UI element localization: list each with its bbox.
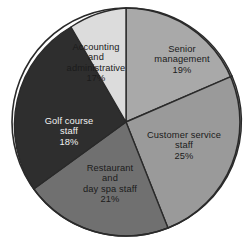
pie-chart-svg — [0, 0, 249, 244]
pie-chart: Senior management 19% Customer service s… — [0, 0, 249, 244]
